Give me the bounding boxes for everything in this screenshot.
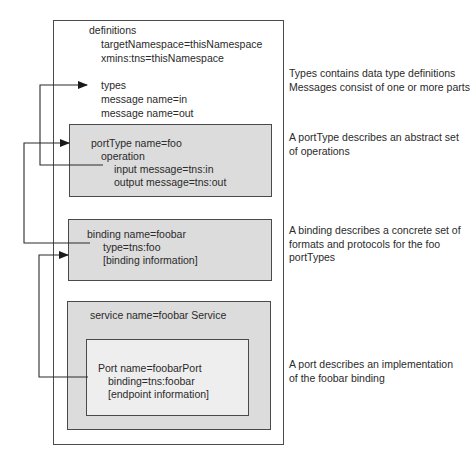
port-binding-text: binding=tns:foobar: [108, 375, 195, 388]
annotation-types-line-1: Types contains data type definitions: [289, 67, 470, 81]
annotation-port-line-2: of the foobar binding: [289, 372, 453, 386]
xmlns-tns-text: xmins:tns=thisNamespace: [101, 52, 224, 65]
message-out-text: message name=out: [101, 107, 194, 120]
port-title: Port name=foobarPort: [98, 362, 202, 375]
annotation-port: A port describes an implementation of th…: [289, 358, 453, 385]
annotation-binding: A binding describes a concrete set of fo…: [289, 224, 461, 265]
binding-info-text: [binding information]: [103, 254, 198, 267]
output-message-text: output message=tns:out: [114, 176, 226, 189]
annotation-binding-line-3: portTypes: [289, 251, 461, 265]
service-title: service name=foobar Service: [90, 309, 226, 322]
binding-type-text: type=tns:foo: [103, 241, 161, 254]
annotation-types-line-2: Messages consist of one or more parts: [289, 81, 470, 95]
target-namespace-text: targetNamespace=thisNamespace: [101, 38, 262, 51]
operation-label: operation: [101, 150, 145, 163]
annotation-binding-line-2: formats and protocols for the foo: [289, 238, 461, 252]
annotation-port-line-1: A port describes an implementation: [289, 358, 453, 372]
annotation-types: Types contains data type definitions Mes…: [289, 67, 470, 94]
definitions-label: definitions: [89, 24, 136, 37]
port-endpoint-text: [endpoint information]: [108, 388, 209, 401]
porttype-title: portType name=foo: [91, 137, 182, 150]
annotation-porttype-line-2: of operations: [289, 145, 459, 159]
binding-title: binding name=foobar: [87, 228, 186, 241]
annotation-porttype: A portType describes an abstract set of …: [289, 131, 459, 158]
message-in-text: message name=in: [101, 93, 187, 106]
annotation-porttype-line-1: A portType describes an abstract set: [289, 131, 459, 145]
input-message-text: input message=tns:in: [114, 163, 214, 176]
annotation-binding-line-1: A binding describes a concrete set of: [289, 224, 461, 238]
types-label: types: [101, 79, 126, 92]
